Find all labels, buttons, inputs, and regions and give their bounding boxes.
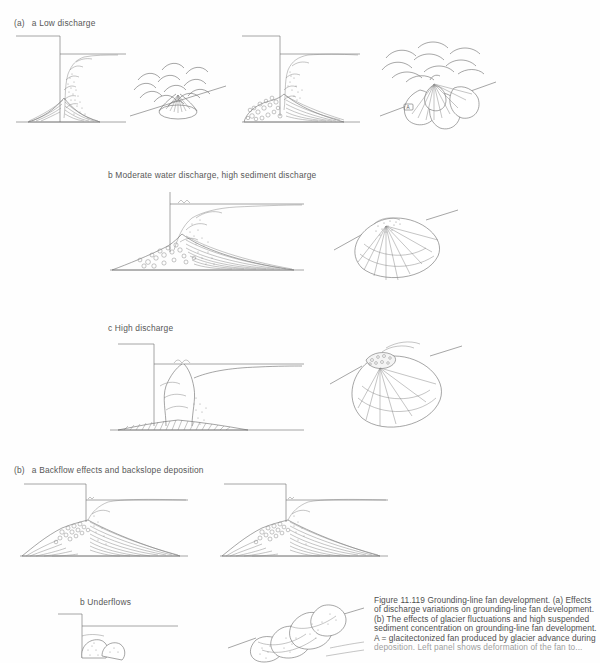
sublabel-a-b: b Moderate water discharge, high sedimen…	[108, 170, 316, 180]
diagram-backflow-right	[218, 482, 388, 568]
caption-line-6-clipped: deposition. Left panel shows deformation…	[374, 643, 598, 652]
diagram-low-discharge-section	[14, 30, 126, 135]
section-letter-b: (b)	[14, 465, 25, 475]
figure-page: (a)a Low discharge	[0, 0, 600, 663]
sublabel-a-b-wrap: b Moderate water discharge, high sedimen…	[108, 170, 316, 180]
diagram-moderate-discharge-section	[108, 190, 304, 290]
sublabel-a-c: c High discharge	[108, 323, 173, 333]
sublabel-b-a: a Backflow effects and backslope deposit…	[32, 465, 204, 475]
diagram-moderate-discharge-3d	[330, 200, 460, 290]
sublabel-b-b: b Underflows	[80, 597, 131, 607]
sublabel-a-c-wrap: c High discharge	[108, 323, 173, 333]
diagram-high-discharge-3d	[326, 340, 466, 440]
diagram-underflows-3d	[226, 604, 366, 663]
section-letter-a: (a)	[14, 18, 25, 28]
section-label-b: (b)a Backflow effects and backslope depo…	[14, 465, 204, 475]
figure-caption: Figure 11.119 Grounding-line fan develop…	[374, 596, 598, 653]
diagram-low-discharge-section-advanced	[240, 30, 360, 135]
sublabel-a-a: a Low discharge	[32, 18, 96, 28]
diagram-high-discharge-section	[108, 342, 304, 438]
diagram-low-discharge-3d-lobate: A	[376, 28, 500, 140]
diagram-backflow-left	[18, 482, 188, 568]
section-label-a: (a)a Low discharge	[14, 18, 95, 28]
sublabel-b-b-wrap: b Underflows	[80, 597, 131, 607]
diagram-underflows-section	[56, 612, 236, 663]
diagram-low-discharge-3d	[128, 40, 228, 135]
